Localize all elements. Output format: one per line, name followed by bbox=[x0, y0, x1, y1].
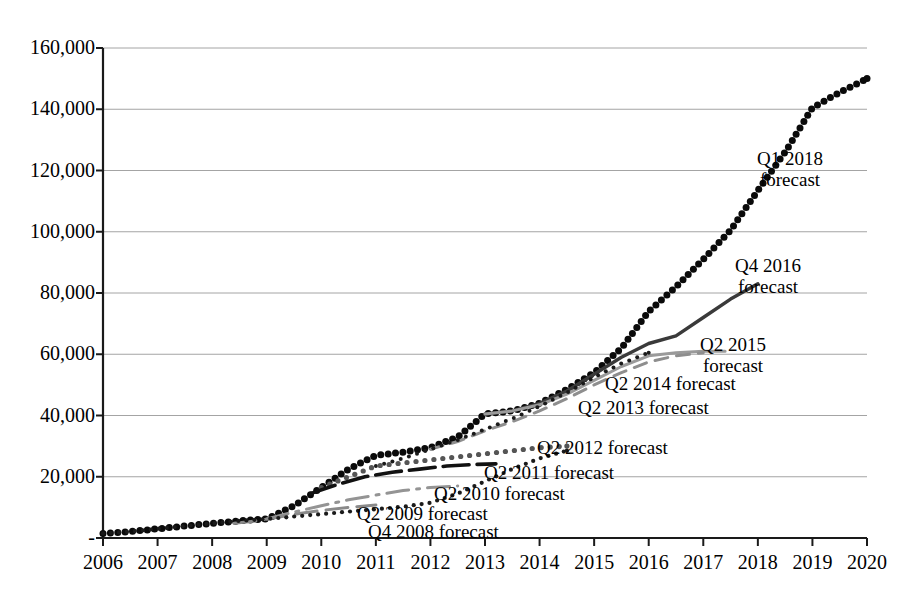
y-axis-tick-label: 100,000 bbox=[0, 221, 95, 241]
y-axis-tick-label: 80,000 bbox=[0, 282, 95, 302]
annotation-q4-2016-line1: Q4 2016 bbox=[735, 255, 801, 276]
y-axis-tick-label: - bbox=[0, 527, 95, 547]
y-axis-tick-label: 160,000 bbox=[0, 37, 95, 57]
annotation-q1-2018-forecast: Q1 2018 forecast bbox=[757, 148, 823, 190]
x-axis-tick-label: 2013 bbox=[455, 552, 515, 572]
annotation-q2-2015-line1: Q2 2015 bbox=[700, 334, 766, 355]
x-axis-tick-label: 2016 bbox=[619, 552, 679, 572]
annotation-q2-2011-forecast: Q2 2011 forecast bbox=[484, 462, 614, 483]
annotation-q4-2008-forecast: Q4 2008 forecast bbox=[368, 521, 499, 542]
x-axis-tick-label: 2011 bbox=[346, 552, 406, 572]
annotation-q2-2014-forecast: Q2 2014 forecast bbox=[605, 373, 736, 394]
chart-container: -20,00040,00060,00080,000100,000120,0001… bbox=[0, 0, 899, 604]
y-axis-tick-label: 60,000 bbox=[0, 343, 95, 363]
x-axis-tick-label: 2010 bbox=[291, 552, 351, 572]
x-axis-tick-label: 2012 bbox=[400, 552, 460, 572]
y-axis-tick-label: 140,000 bbox=[0, 98, 95, 118]
x-axis-tick-label: 2009 bbox=[237, 552, 297, 572]
x-axis-tick-label: 2020 bbox=[837, 552, 897, 572]
x-axis-tick-label: 2006 bbox=[73, 552, 133, 572]
y-axis-tick-label: 20,000 bbox=[0, 466, 95, 486]
x-axis-tick-label: 2007 bbox=[128, 552, 188, 572]
x-axis-tick-label: 2015 bbox=[564, 552, 624, 572]
annotation-q4-2016-line2: forecast bbox=[735, 276, 801, 297]
annotation-q2-2015-forecast: Q2 2015 forecast bbox=[700, 334, 766, 376]
x-axis-tick-label: 2017 bbox=[673, 552, 733, 572]
y-axis-tick-label: 120,000 bbox=[0, 160, 95, 180]
annotation-q2-2012-forecast: Q2 2012 forecast bbox=[537, 437, 668, 458]
annotation-q2-2010-forecast: Q2 2010 forecast bbox=[434, 483, 565, 504]
annotation-q1-2018-line2: forecast bbox=[757, 169, 823, 190]
annotation-q4-2016-forecast: Q4 2016 forecast bbox=[735, 255, 801, 297]
annotation-q1-2018-line1: Q1 2018 bbox=[757, 148, 823, 169]
x-axis-tick-label: 2014 bbox=[510, 552, 570, 572]
x-axis-tick-label: 2019 bbox=[782, 552, 842, 572]
x-axis-tick-label: 2018 bbox=[728, 552, 788, 572]
y-axis-tick-label: 40,000 bbox=[0, 405, 95, 425]
x-axis-tick-label: 2008 bbox=[182, 552, 242, 572]
annotation-q2-2013-forecast: Q2 2013 forecast bbox=[578, 397, 709, 418]
axis-ticks-group bbox=[96, 48, 867, 546]
